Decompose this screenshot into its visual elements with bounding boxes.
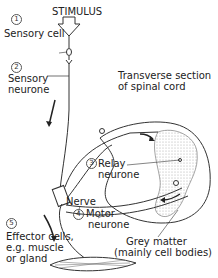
step-5-badge: 5 <box>6 218 17 229</box>
sensory-neurone-label-1: Sensory <box>8 73 48 84</box>
effector-label-3: or gland <box>6 253 47 264</box>
sensory-neurone-label-2: neurone <box>8 84 49 95</box>
step-2-badge: 2 <box>11 62 22 73</box>
motor-neurone-label-1: Motor <box>86 208 115 219</box>
motor-neurone-label-2: neurone <box>88 219 129 230</box>
stimulus-label: STIMULUS <box>52 6 102 17</box>
grey-matter-label-1: Grey matter <box>126 236 187 247</box>
nerve-label: Nerve <box>66 196 96 207</box>
step-1-badge: 1 <box>11 14 22 25</box>
relay-neurone-label-2: neurone <box>98 169 139 180</box>
effector-label-1: Effector cells, <box>6 231 74 242</box>
grey-matter-region <box>155 130 198 216</box>
sensory-cell-label: Sensory cell <box>4 28 65 39</box>
step-3-badge: 3 <box>86 158 97 169</box>
transverse-section-label-1: Transverse section <box>118 70 211 81</box>
grey-matter-label-2: (mainly cell bodies) <box>114 247 212 258</box>
step-4-badge: 4 <box>73 209 84 220</box>
effector-label-2: e.g. muscle <box>6 242 64 253</box>
relay-neurone-label-1: Relay <box>98 158 125 169</box>
transverse-section-label-2: of spinal cord <box>118 81 185 92</box>
